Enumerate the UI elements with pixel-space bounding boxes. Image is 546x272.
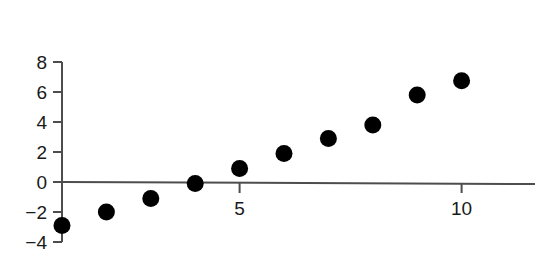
y-axis-tick-label: 0	[36, 172, 47, 193]
data-point	[364, 117, 381, 134]
data-point	[276, 145, 293, 162]
y-axis-tick-label: 6	[36, 82, 47, 103]
y-axis-tick-label: 2	[36, 142, 47, 163]
data-point-layer	[54, 72, 471, 234]
plot-canvas: −4−202468510	[0, 0, 546, 272]
data-point	[54, 217, 71, 234]
data-point	[98, 204, 115, 221]
data-point	[409, 87, 426, 104]
x-axis-tick-label: 5	[234, 198, 245, 219]
data-point	[320, 130, 337, 147]
y-axis-tick-label: 8	[36, 52, 47, 73]
data-point	[142, 190, 159, 207]
scatter-plot-figure: −4−202468510	[0, 0, 546, 272]
y-axis-tick-label: −4	[25, 232, 47, 253]
y-axis-tick-label: 4	[36, 112, 47, 133]
y-axis-tick-label: −2	[25, 202, 47, 223]
tick-label-layer: −4−202468510	[25, 52, 472, 253]
data-point	[231, 160, 248, 177]
x-axis-tick-label: 10	[451, 198, 472, 219]
data-point	[453, 72, 470, 89]
x-axis-line	[62, 182, 535, 184]
data-point	[187, 175, 204, 192]
